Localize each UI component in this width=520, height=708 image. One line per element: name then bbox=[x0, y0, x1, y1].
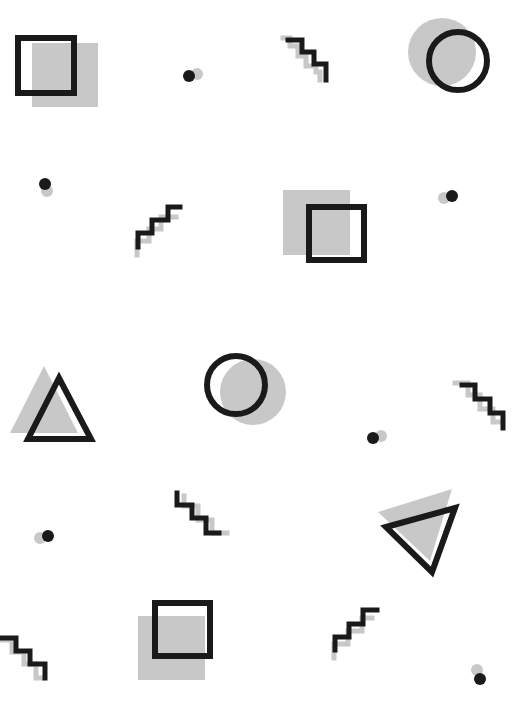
dot-row4-left-dot-icon bbox=[42, 530, 54, 542]
geometric-pattern-canvas bbox=[0, 0, 520, 708]
dot-top-center-dot-icon bbox=[183, 70, 195, 82]
square-top-left-shadow-square-icon bbox=[32, 43, 98, 107]
square-bottom-center-shadow-square-icon bbox=[138, 616, 205, 680]
circle-top-right-shadow-circle-icon bbox=[408, 18, 476, 86]
dot-bottom-right-dot-icon bbox=[474, 673, 486, 685]
dot-row2-right-dot-icon bbox=[446, 190, 458, 202]
dot-row2-left-dot-icon bbox=[39, 178, 51, 190]
pattern-svg bbox=[0, 0, 520, 708]
dot-row3-right-dot-icon bbox=[367, 432, 379, 444]
square-row2-center-shadow-square-icon bbox=[283, 190, 350, 255]
